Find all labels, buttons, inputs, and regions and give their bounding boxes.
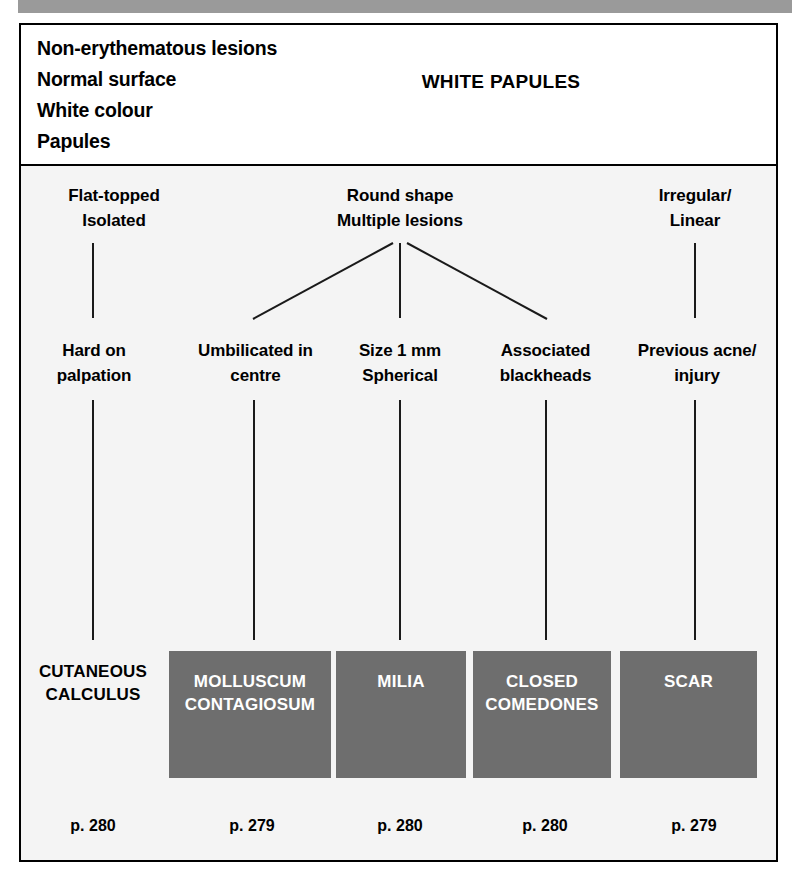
- criteria-line-4: Papules: [37, 126, 367, 157]
- level2-node-5: Previous acne/ injury: [619, 338, 775, 388]
- level2-1-line2: palpation: [21, 363, 167, 388]
- level2-node-4: Associated blackheads: [473, 338, 618, 388]
- top-decorative-bar: [18, 0, 792, 13]
- level1-left-line2: Isolated: [24, 208, 204, 233]
- level2-node-2: Umbilicated in centre: [178, 338, 333, 388]
- diagonal-to-comedones: [407, 243, 547, 319]
- level1-node-left: Flat-topped Isolated: [24, 183, 204, 233]
- diagnosis-molluscum-contagiosum[interactable]: MOLLUSCUM CONTAGIOSUM: [169, 651, 331, 778]
- level2-2-line1: Umbilicated in: [178, 338, 333, 363]
- diagnosis-1-line1: CUTANEOUS: [27, 660, 159, 683]
- level1-right-line2: Linear: [605, 208, 785, 233]
- level1-center-line2: Multiple lesions: [310, 208, 490, 233]
- level2-node-3: Size 1 mm Spherical: [330, 338, 470, 388]
- criteria-line-1: Non-erythematous lesions: [37, 33, 367, 64]
- connector-vertical-col1-lower: [92, 400, 94, 640]
- level1-node-center: Round shape Multiple lesions: [310, 183, 490, 233]
- diagnosis-3-line1: MILIA: [377, 670, 424, 693]
- diagnosis-5-line1: SCAR: [664, 670, 713, 693]
- level2-1-line1: Hard on: [21, 338, 167, 363]
- page-ref-2[interactable]: p. 279: [201, 817, 303, 835]
- level2-4-line1: Associated: [473, 338, 618, 363]
- diagonal-to-molluscum: [253, 243, 393, 319]
- connector-diagonals-center-branch: [21, 236, 776, 326]
- level2-5-line2: injury: [619, 363, 775, 388]
- diagnosis-milia[interactable]: MILIA: [336, 651, 466, 778]
- page-ref-4[interactable]: p. 280: [494, 817, 596, 835]
- level1-left-line1: Flat-topped: [24, 183, 204, 208]
- level2-node-1: Hard on palpation: [21, 338, 167, 388]
- level2-2-line2: centre: [178, 363, 333, 388]
- diagnosis-4-line1: CLOSED: [485, 670, 598, 693]
- header-criteria-list: Non-erythematous lesions Normal surface …: [37, 33, 367, 157]
- diagnosis-closed-comedones[interactable]: CLOSED COMEDONES: [473, 651, 611, 778]
- level2-4-line2: blackheads: [473, 363, 618, 388]
- page-title: WHITE PAPULES: [351, 71, 651, 93]
- level1-node-right: Irregular/ Linear: [605, 183, 785, 233]
- level1-center-line1: Round shape: [310, 183, 490, 208]
- white-papules-flowchart-page: Non-erythematous lesions Normal surface …: [0, 0, 792, 883]
- connector-vertical-col3-lower: [399, 400, 401, 640]
- criteria-line-3: White colour: [37, 95, 367, 126]
- level2-3-line1: Size 1 mm: [330, 338, 470, 363]
- diagnosis-2-line1: MOLLUSCUM: [185, 670, 315, 693]
- diagnosis-scar[interactable]: SCAR: [620, 651, 757, 778]
- page-ref-5[interactable]: p. 279: [643, 817, 745, 835]
- level1-right-line1: Irregular/: [605, 183, 785, 208]
- connector-vertical-col4-lower: [545, 400, 547, 640]
- diagnosis-4-line2: COMEDONES: [485, 693, 598, 716]
- diagnosis-1-line2: CALCULUS: [27, 683, 159, 706]
- header-panel: Non-erythematous lesions Normal surface …: [21, 25, 776, 166]
- connector-vertical-col5-lower: [694, 400, 696, 640]
- page-ref-3[interactable]: p. 280: [349, 817, 451, 835]
- diagnosis-2-line2: CONTAGIOSUM: [185, 693, 315, 716]
- connector-vertical-col2-lower: [253, 400, 255, 640]
- diagnosis-cutaneous-calculus[interactable]: CUTANEOUS CALCULUS: [27, 660, 159, 706]
- level2-3-line2: Spherical: [330, 363, 470, 388]
- page-ref-1[interactable]: p. 280: [42, 817, 144, 835]
- level2-5-line1: Previous acne/: [619, 338, 775, 363]
- criteria-line-2: Normal surface: [37, 64, 367, 95]
- flowchart-body: Flat-topped Isolated Round shape Multipl…: [21, 166, 776, 860]
